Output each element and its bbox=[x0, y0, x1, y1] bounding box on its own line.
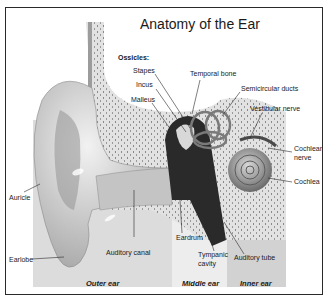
label-cochlear-nerve-line1: Cochlear bbox=[294, 144, 322, 153]
label-tympanic-cavity-line1: Tympanic bbox=[198, 250, 228, 259]
label-eardrum: Eardrum bbox=[176, 233, 203, 242]
label-stapes: Stapes bbox=[133, 66, 155, 75]
ear-illustration bbox=[0, 0, 329, 304]
label-auricle: Auricle bbox=[9, 193, 30, 202]
region-inner-ear: Inner ear bbox=[240, 279, 272, 288]
region-outer-ear: Outer ear bbox=[86, 279, 119, 288]
label-vestibular-nerve: Vestibular nerve bbox=[250, 104, 300, 113]
label-malleus: Malleus bbox=[131, 95, 155, 104]
label-auditory-tube: Auditory tube bbox=[234, 253, 275, 262]
label-semicircular-ducts: Semicircular ducts bbox=[241, 84, 298, 93]
label-temporal-bone: Temporal bone bbox=[190, 69, 236, 78]
label-incus: Incus bbox=[136, 80, 153, 89]
label-auditory-canal: Auditory canal bbox=[106, 248, 150, 257]
region-middle-ear: Middle ear bbox=[182, 279, 219, 288]
label-cochlear-nerve-line2: nerve bbox=[294, 153, 312, 162]
label-cochlea: Cochlea bbox=[294, 177, 320, 186]
label-earlobe: Earlobe bbox=[9, 255, 33, 264]
label-tympanic-cavity-line2: cavity bbox=[198, 259, 216, 268]
diagram-title: Anatomy of the Ear bbox=[140, 16, 260, 32]
label-ossicles: Ossicles: bbox=[118, 53, 149, 62]
